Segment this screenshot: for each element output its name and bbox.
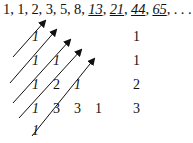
triangle-cell: 1 (74, 78, 81, 92)
triangle-cell: 1 (32, 30, 39, 44)
triangle-cell: 3 (74, 102, 81, 116)
triangle-cell: 1 (95, 102, 102, 116)
triangle-cell: 3 (53, 102, 60, 116)
triangle-cell: 1 (32, 124, 39, 138)
diagonal-sum: 1 (133, 30, 140, 44)
triangle-cell: 2 (53, 78, 60, 92)
diagonal-sum: 3 (133, 102, 140, 116)
diagonal-arrows (0, 0, 193, 143)
arrow-4 (19, 50, 81, 118)
triangle-cell: 1 (32, 54, 39, 68)
arrow-5 (32, 59, 94, 136)
triangle-cell: 1 (32, 102, 39, 116)
triangle-cell: 1 (53, 54, 60, 68)
triangle-cell: 1 (32, 78, 39, 92)
diagonal-sum: 1 (133, 54, 140, 68)
diagonal-sum: 2 (133, 78, 140, 92)
arrow-1 (13, 21, 45, 57)
